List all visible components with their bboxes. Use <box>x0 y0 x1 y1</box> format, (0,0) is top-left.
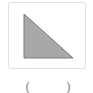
right-triangle-icon <box>9 3 87 70</box>
caption-close-paren: ) <box>66 81 71 93</box>
caption-open-paren: ( <box>25 81 30 93</box>
shape-tile[interactable] <box>8 2 86 69</box>
